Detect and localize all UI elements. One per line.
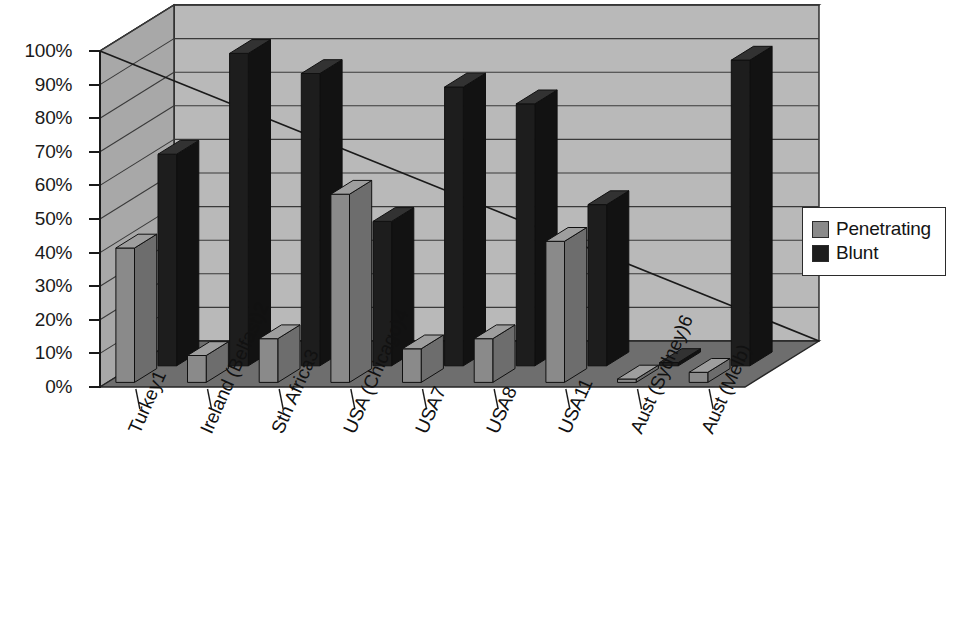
x-axis-label-1: Ireland (Belfast)2 (195, 299, 272, 437)
x-axis-labels: Turkey1Ireland (Belfast)2Sth Africa3USA … (0, 0, 968, 636)
y-axis-spine (99, 51, 101, 388)
legend: Penetrating Blunt (802, 207, 946, 276)
legend-swatch-penetrating (812, 221, 829, 238)
legend-item-penetrating: Penetrating (812, 218, 931, 240)
x-axis-label-7: Aust (Sydney)6 (625, 312, 697, 437)
x-axis-label-0: Turkey1 (124, 367, 171, 437)
legend-swatch-blunt (812, 245, 829, 262)
chart-root: 0%10%20%30%40%50%60%70%80%90%100% Turkey… (0, 0, 968, 636)
x-axis-label-6: USA11 (554, 375, 598, 437)
x-axis-label-3: USA (Chicago)4 (339, 306, 413, 437)
legend-item-blunt: Blunt (812, 242, 931, 264)
legend-label-penetrating: Penetrating (836, 218, 931, 240)
x-axis-label-4: USA7 (410, 383, 450, 437)
legend-label-blunt: Blunt (836, 242, 878, 264)
x-axis-label-5: USA8 (482, 383, 522, 437)
x-axis-label-8: Aust (Melb) (697, 341, 756, 437)
x-axis-label-2: Sth Africa3 (267, 346, 324, 437)
